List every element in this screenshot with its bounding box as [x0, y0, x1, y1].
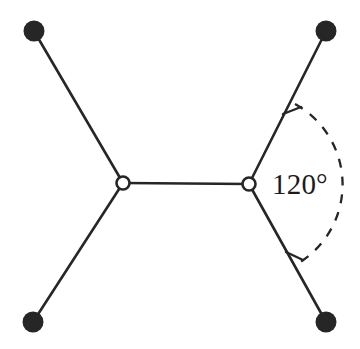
bond-angle-diagram: 120°	[0, 0, 360, 349]
bottom-right-atom	[316, 312, 337, 333]
right-vertex	[243, 178, 256, 191]
top-left-atom	[24, 21, 45, 42]
bottom-left-atom	[23, 312, 44, 333]
bond-center	[123, 183, 249, 184]
bond-angle-figure: 120°	[0, 0, 360, 349]
angle-label: 120°	[272, 168, 328, 200]
left-vertex	[117, 177, 130, 190]
top-right-atom	[316, 21, 337, 42]
